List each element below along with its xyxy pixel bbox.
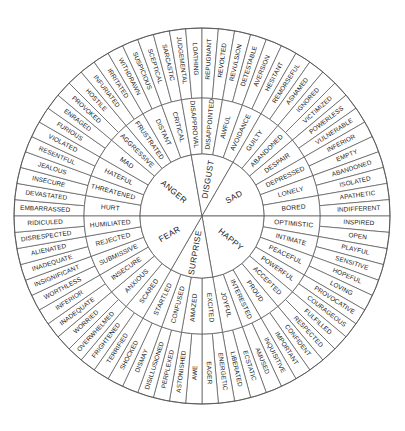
ring-core-group [140, 154, 264, 278]
outer-label-awe-4-0: AWE [191, 365, 199, 380]
outer-label-eager-4-1: EAGER [206, 361, 214, 384]
outer-label-loathing-1-1: LOATHING [192, 42, 200, 75]
emotion-wheel-diagram: ANGERHURTEMBARRASSEDDEVASTATEDTHREATENED… [0, 0, 405, 431]
outer-label-inspired-3-0: INSPIRED [343, 218, 375, 226]
emotion-wheel-svg: ANGERHURTEMBARRASSEDDEVASTATEDTHREATENED… [0, 0, 405, 431]
